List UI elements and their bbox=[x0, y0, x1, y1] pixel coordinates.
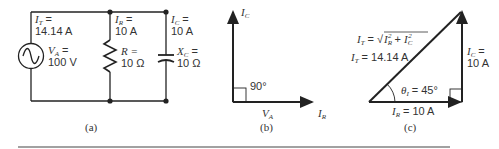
resistor-label: R = bbox=[120, 45, 138, 57]
caption-c: (c) bbox=[404, 121, 417, 134]
panel-b-phasor bbox=[233, 12, 312, 102]
theta-label: θI= 45° bbox=[401, 84, 438, 98]
right-angle-marker bbox=[233, 88, 246, 102]
ic-axis-label: IC bbox=[240, 6, 250, 20]
angle-arc-icon bbox=[387, 84, 395, 102]
it-formula: IT= √IR2+IC2 bbox=[356, 32, 413, 47]
resistor-current-value: 10 A bbox=[115, 25, 138, 37]
it-value-label: IT= 14.14 A bbox=[350, 51, 409, 65]
sine-wave-icon bbox=[23, 49, 39, 64]
capacitive-reactance-value: 10 Ω bbox=[177, 57, 201, 69]
resistor-value: 10 Ω bbox=[121, 57, 145, 69]
phasor-figure: IT= 14.14 A VA= 100 V IR= 10 A R = 10 Ω … bbox=[0, 0, 499, 149]
caption-b: (b) bbox=[260, 121, 273, 134]
resistor-icon bbox=[104, 40, 116, 72]
angle-90-label: 90° bbox=[250, 80, 267, 92]
ic-value: 10 A bbox=[467, 57, 490, 69]
right-angle-marker bbox=[450, 89, 462, 102]
capacitor-current-value: 10 A bbox=[171, 25, 194, 37]
caption-a: (a) bbox=[85, 121, 98, 134]
source-voltage-value: 100 V bbox=[48, 56, 77, 68]
va-reference-label: VA bbox=[262, 107, 274, 121]
ir-value-label: IR= 10 A bbox=[391, 105, 435, 119]
ir-axis-label: IR bbox=[317, 107, 327, 121]
source-current-value: 14.14 A bbox=[35, 25, 73, 37]
